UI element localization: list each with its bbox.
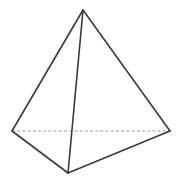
tetrahedron-svg bbox=[0, 0, 181, 184]
tetrahedron-figure bbox=[0, 0, 181, 184]
